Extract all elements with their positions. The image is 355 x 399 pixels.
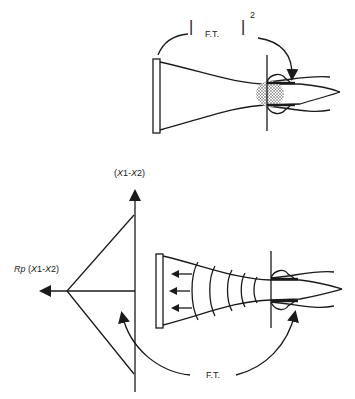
aperture-plate-bottom [156,254,163,328]
focal-spot-stipple [256,81,284,107]
wavefront-3 [228,270,233,311]
top-diagram [153,34,340,133]
wavefront-1 [192,262,198,320]
beam-wing-lower [268,106,330,111]
var-x1b: X [31,264,37,274]
ft-bar-left: | [189,18,193,36]
bottom-diagram [42,192,342,392]
wavefront-4 [241,273,245,307]
var-x1: X [117,168,123,178]
ft-arc-right-bottom [236,313,295,375]
ft-arc-left [158,34,188,55]
rp-label: Rp [14,264,26,274]
var-x2: X [131,168,137,178]
beam-wing-upper [268,77,330,82]
beam-wing-lower-bottom [271,302,334,307]
wavefront-2 [210,266,215,316]
ft-bar-right: | [241,18,245,36]
diagram-canvas [0,0,355,399]
wavefront-5 [254,277,257,303]
beam-wing-upper-bottom [271,272,334,278]
vertical-axis-label: (X1-X2) [114,168,145,178]
ft-label-top: F.T. [205,29,219,39]
aperture-plate [153,59,160,133]
var-x2b: X [45,264,51,274]
horizontal-axis-label: Rp (X1-X2) [14,264,59,274]
exponent-label: 2 [250,10,255,20]
triangle [67,215,134,374]
ft-arc-right [258,38,292,78]
ft-label-bottom: F.T. [206,370,220,380]
